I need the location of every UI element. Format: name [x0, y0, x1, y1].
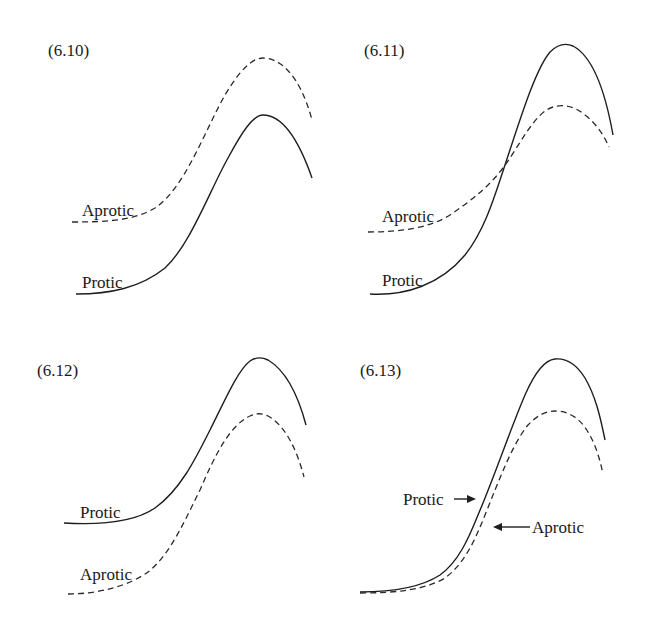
protic-curve	[370, 44, 613, 294]
panel-label: (6.13)	[360, 361, 401, 380]
protic-label: Protic	[80, 503, 121, 522]
aprotic-curve	[360, 411, 603, 593]
aprotic-label: Aprotic	[82, 201, 134, 220]
protic-curve	[360, 359, 605, 592]
arrow-right-icon	[454, 495, 476, 503]
aprotic-label: Aprotic	[532, 518, 584, 537]
aprotic-label: Aprotic	[382, 207, 434, 226]
protic-label: Protic	[82, 273, 123, 292]
aprotic-curve	[72, 58, 312, 222]
panel-label: (6.10)	[48, 41, 89, 60]
panel-label: (6.11)	[364, 41, 404, 60]
panel-6-12: (6.12) Protic Aprotic	[37, 358, 306, 594]
protic-label: Protic	[382, 271, 423, 290]
panel-6-11: (6.11) Aprotic Protic	[364, 41, 613, 294]
panel-6-10: (6.10) Aprotic Protic	[48, 41, 312, 294]
panel-6-13: (6.13) Protic Aprotic	[360, 359, 605, 593]
protic-curve	[64, 358, 306, 524]
energy-diagram-figure: (6.10) Aprotic Protic (6.11) Aprotic Pro…	[0, 0, 647, 635]
protic-label: Protic	[403, 490, 444, 509]
aprotic-label: Aprotic	[80, 565, 132, 584]
panel-label: (6.12)	[37, 361, 78, 380]
arrow-left-icon	[493, 523, 530, 531]
